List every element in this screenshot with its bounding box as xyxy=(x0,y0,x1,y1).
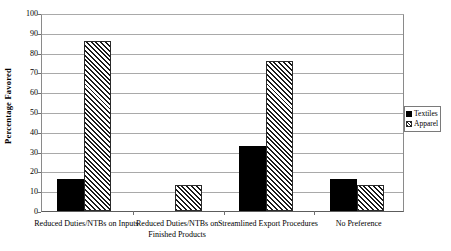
gridline xyxy=(42,34,403,35)
bar-apparel-3 xyxy=(357,185,384,211)
bar-apparel-2 xyxy=(266,61,293,211)
gridline xyxy=(42,14,403,15)
bar-textiles-2 xyxy=(239,146,266,211)
bar-apparel-0 xyxy=(84,41,111,211)
y-axis-tick-label: 90 xyxy=(8,30,38,38)
legend-label-textiles: Textiles xyxy=(414,110,438,118)
legend-label-apparel: Apparel xyxy=(414,120,438,128)
y-axis-tick-mark xyxy=(37,212,41,213)
bar-textiles-3 xyxy=(330,179,357,211)
y-axis-tick-label: 40 xyxy=(8,129,38,137)
x-axis-category-label-line: No Preference xyxy=(303,219,414,230)
legend-swatch-apparel-icon xyxy=(406,121,412,127)
y-axis-tick-label: 60 xyxy=(8,89,38,97)
legend: Textiles Apparel xyxy=(404,106,441,132)
y-axis-tick-label: 70 xyxy=(8,69,38,77)
plot-area xyxy=(41,14,404,212)
legend-item-apparel: Apparel xyxy=(406,119,438,129)
y-axis-tick-label: 50 xyxy=(8,109,38,117)
legend-swatch-textiles-icon xyxy=(406,111,412,117)
bar-chart: Percentage Favored 010203040506070809010… xyxy=(0,0,451,251)
y-axis-tick-label: 0 xyxy=(8,208,38,216)
x-axis-separator-tick xyxy=(133,211,134,215)
y-axis-tick-label: 30 xyxy=(8,149,38,157)
y-axis-tick-label: 100 xyxy=(8,10,38,18)
legend-item-textiles: Textiles xyxy=(406,109,438,119)
x-axis-category-label-line: Finished Products xyxy=(122,230,233,241)
x-axis-separator-tick xyxy=(224,211,225,215)
y-axis-tick-label: 10 xyxy=(8,188,38,196)
bar-textiles-0 xyxy=(57,179,84,211)
bar-apparel-1 xyxy=(175,185,202,211)
x-axis-category-label: No Preference xyxy=(303,219,414,230)
y-axis-tick-label: 80 xyxy=(8,50,38,58)
x-axis-separator-tick xyxy=(314,211,315,215)
y-axis-tick-label: 20 xyxy=(8,168,38,176)
